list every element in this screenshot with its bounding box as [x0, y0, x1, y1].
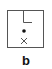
dot-marker	[22, 29, 26, 33]
cross-marker	[21, 38, 27, 44]
panel-label: b	[0, 54, 52, 68]
l-corner-mark	[24, 11, 33, 23]
